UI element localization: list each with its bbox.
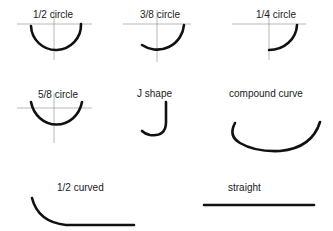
j-shape-figure <box>142 102 166 135</box>
label-straight: straight <box>228 183 261 193</box>
label-half-circle: 1/2 circle <box>33 10 73 20</box>
label-half-curved: 1/2 curved <box>57 183 104 193</box>
label-quarter-circle: 1/4 circle <box>256 10 296 20</box>
compound-curve-line <box>232 122 320 151</box>
five-eighths-circle-curve <box>31 102 82 125</box>
quarter-circle-curve <box>269 25 297 50</box>
half-curved-line <box>32 198 134 225</box>
half-curved-figure <box>32 198 134 225</box>
label-j-shape: J shape <box>137 89 172 99</box>
five-eighths-circle-figure <box>17 93 92 143</box>
needle-shapes-diagram <box>0 0 333 231</box>
label-three-eighths-circle: 3/8 circle <box>140 10 180 20</box>
label-five-eighths-circle: 5/8 circle <box>38 90 78 100</box>
compound-curve-figure <box>232 122 320 151</box>
three-eighths-circle-curve <box>142 25 184 50</box>
label-compound-curve: compound curve <box>229 89 303 99</box>
j-shape-curve <box>142 102 166 135</box>
half-circle-curve <box>31 24 81 50</box>
